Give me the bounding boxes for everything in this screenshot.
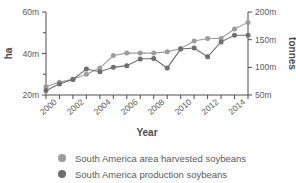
legend-marker-icon-production: [58, 170, 66, 178]
legend-item-production[interactable]: South America production soybeans: [58, 166, 296, 182]
x-axis-tick-label-group: 2004: [92, 97, 113, 117]
data-point: [84, 66, 89, 71]
x-axis-tick-label-group: 2010: [172, 97, 193, 117]
data-point: [138, 51, 143, 56]
y2-axis-tick-label: 200m: [255, 7, 276, 17]
x-axis-tick-label: 2002: [65, 97, 86, 117]
legend-label-production: South America production soybeans: [75, 169, 227, 180]
data-point: [219, 39, 224, 44]
y-axis-title: ha: [3, 47, 14, 59]
y2-axis-tick-label: 100m: [255, 62, 276, 72]
legend-label-area-harvested: South America area harvested soybeans: [75, 153, 246, 164]
x-axis-title: Year: [136, 127, 157, 138]
data-point: [151, 56, 156, 61]
data-point: [205, 36, 210, 41]
data-point: [138, 57, 143, 62]
data-point: [111, 53, 116, 58]
chart-legend: South America area harvested soybeans So…: [58, 150, 296, 182]
data-point: [57, 81, 62, 86]
data-point: [165, 49, 170, 54]
series-line-1: [46, 35, 248, 90]
data-point: [124, 51, 129, 56]
x-axis-tick-label-group: 2006: [119, 97, 140, 117]
data-point: [151, 51, 156, 56]
x-axis-tick-label: 2006: [119, 97, 140, 117]
y2-axis-title: tonnes: [287, 37, 296, 70]
data-point: [70, 77, 75, 82]
data-point: [192, 39, 197, 44]
x-axis-tick-label-group: 2014: [226, 97, 247, 117]
data-point: [246, 20, 251, 25]
data-point: [246, 33, 251, 38]
data-point: [44, 88, 49, 93]
x-axis-tick-label: 2000: [38, 97, 59, 117]
x-axis-tick-label: 2014: [226, 97, 247, 117]
data-point: [232, 33, 237, 38]
legend-marker-icon-area-harvested: [58, 154, 66, 162]
y2-axis-tick-label: 150m: [255, 35, 276, 45]
x-axis-tick-label: 2004: [92, 97, 113, 117]
data-point: [232, 27, 237, 32]
legend-item-area-harvested[interactable]: South America area harvested soybeans: [58, 150, 296, 166]
data-point: [178, 47, 183, 52]
data-point: [205, 54, 210, 59]
x-axis-tick-label-group: 2008: [146, 97, 167, 117]
x-axis-tick-label-group: 2002: [65, 97, 86, 117]
chart-container: 20m40m60m50m100m150m200m2000200220042006…: [0, 0, 296, 183]
x-axis-tick-label-group: 2012: [199, 97, 220, 117]
data-point: [97, 69, 102, 74]
y2-axis-tick-label: 50m: [255, 90, 272, 100]
data-point: [192, 45, 197, 50]
y-axis-tick-label: 20m: [22, 90, 39, 100]
x-axis-tick-label-group: 2000: [38, 97, 59, 117]
x-axis-tick-label: 2010: [172, 97, 193, 117]
data-point: [124, 63, 129, 68]
x-axis-tick-label: 2008: [146, 97, 167, 117]
y-axis-tick-label: 60m: [22, 7, 39, 17]
data-point: [84, 72, 89, 77]
y-axis-tick-label: 40m: [22, 49, 39, 59]
data-point: [165, 65, 170, 70]
data-point: [111, 65, 116, 70]
x-axis-tick-label: 2012: [199, 97, 220, 117]
